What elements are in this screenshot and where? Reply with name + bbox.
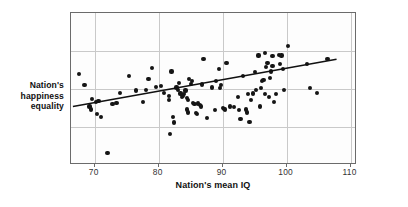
- x-tick-label-90: 90: [217, 167, 227, 177]
- x-tick-label-80: 80: [153, 167, 163, 177]
- x-axis-label: Nation's mean IQ: [70, 180, 356, 190]
- x-tick-label-70: 70: [89, 167, 99, 177]
- trend-line: [71, 13, 355, 163]
- x-tick-label-100: 100: [278, 167, 293, 177]
- y-axis-label-line-3: equality: [2, 101, 64, 112]
- x-tick-label-110: 110: [343, 167, 357, 177]
- y-axis-label-line-1: Nation's: [2, 80, 64, 91]
- plot-area: [70, 12, 356, 164]
- y-axis-label-line-2: happiness: [2, 91, 64, 102]
- y-axis-label: Nation's happiness equality: [2, 80, 64, 112]
- scatter-chart-figure: Nation's happiness equality 708090100110…: [0, 0, 408, 207]
